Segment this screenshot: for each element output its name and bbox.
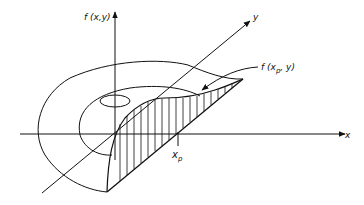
slice-curve-label-prefix: f (x <box>261 62 276 72</box>
xp-label: xp <box>172 150 182 163</box>
slice-curve-label: f (xp, y) <box>261 63 295 75</box>
slice-curve-label-suffix: , y) <box>280 62 295 72</box>
outer-contour <box>38 61 243 192</box>
y-axis-label: y <box>253 13 258 22</box>
z-axis-label: f (x,y) <box>84 13 111 22</box>
y-axis <box>42 21 250 193</box>
surface-diagram <box>0 0 364 205</box>
x-axis-label: x <box>345 131 350 140</box>
xp-label-sub: p <box>178 155 182 163</box>
